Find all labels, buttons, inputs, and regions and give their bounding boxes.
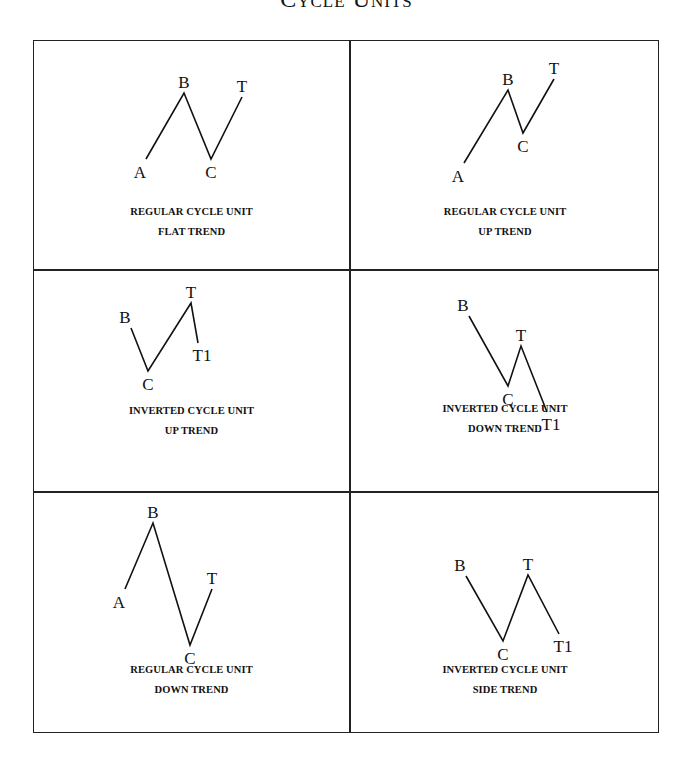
panel-caption-line1: REGULAR CYCLE UNIT bbox=[34, 664, 349, 675]
point-label-t: T bbox=[207, 569, 218, 588]
zigzag-line bbox=[146, 93, 242, 159]
panel-caption-line1: REGULAR CYCLE UNIT bbox=[34, 206, 349, 217]
point-label-b: B bbox=[457, 296, 468, 315]
point-label-b: B bbox=[147, 503, 158, 522]
point-label-c: C bbox=[517, 137, 528, 156]
point-label-a: A bbox=[452, 167, 465, 186]
panel-caption-line2: UP TREND bbox=[34, 425, 349, 436]
panel-inverted-up: BCTT1 INVERTED CYCLE UNIT UP TREND bbox=[34, 270, 349, 491]
point-label-c: C bbox=[497, 645, 508, 664]
point-label-t: T bbox=[516, 326, 527, 345]
panel-caption-line2: UP TREND bbox=[350, 226, 660, 237]
zigzag-diagram: BCTT1 bbox=[350, 270, 660, 491]
point-label-a: A bbox=[134, 163, 147, 182]
zigzag-diagram: ABCT bbox=[34, 492, 349, 732]
point-label-t1: T1 bbox=[193, 346, 212, 365]
point-label-t: T bbox=[549, 59, 560, 78]
zigzag-line bbox=[125, 523, 212, 645]
cycle-units-grid: ABCT REGULAR CYCLE UNIT FLAT TREND ABCT … bbox=[33, 40, 659, 733]
panel-caption-line1: REGULAR CYCLE UNIT bbox=[350, 206, 660, 217]
point-label-b: B bbox=[119, 308, 130, 327]
point-label-t1: T1 bbox=[554, 637, 573, 656]
panel-regular-down: ABCT REGULAR CYCLE UNIT DOWN TREND bbox=[34, 492, 349, 732]
panel-inverted-down: BCTT1 INVERTED CYCLE UNIT DOWN TREND bbox=[350, 270, 660, 491]
zigzag-diagram: BCTT1 bbox=[350, 492, 660, 732]
panel-caption-line1: INVERTED CYCLE UNIT bbox=[350, 403, 660, 414]
panel-caption-line2: SIDE TREND bbox=[350, 684, 660, 695]
point-label-b: B bbox=[502, 70, 513, 89]
point-label-b: B bbox=[178, 73, 189, 92]
panel-caption-line1: INVERTED CYCLE UNIT bbox=[34, 405, 349, 416]
panel-regular-up: ABCT REGULAR CYCLE UNIT UP TREND bbox=[350, 41, 660, 269]
panel-caption-line2: DOWN TREND bbox=[34, 684, 349, 695]
panel-caption-line2: DOWN TREND bbox=[350, 423, 660, 434]
point-label-c: C bbox=[205, 163, 216, 182]
point-label-t: T bbox=[237, 77, 248, 96]
zigzag-line bbox=[131, 303, 198, 371]
zigzag-line bbox=[464, 79, 554, 163]
point-label-t: T bbox=[523, 555, 534, 574]
point-label-b: B bbox=[454, 556, 465, 575]
panel-regular-flat: ABCT REGULAR CYCLE UNIT FLAT TREND bbox=[34, 41, 349, 269]
panel-caption-line2: FLAT TREND bbox=[34, 226, 349, 237]
panel-caption-line1: INVERTED CYCLE UNIT bbox=[350, 664, 660, 675]
zigzag-diagram: BCTT1 bbox=[34, 270, 349, 491]
point-label-a: A bbox=[113, 593, 126, 612]
point-label-c: C bbox=[142, 375, 153, 394]
zigzag-line bbox=[466, 575, 559, 641]
panel-inverted-side: BCTT1 INVERTED CYCLE UNIT SIDE TREND bbox=[350, 492, 660, 732]
page-title: Cycle Units bbox=[0, 0, 693, 13]
point-label-t: T bbox=[186, 283, 197, 302]
